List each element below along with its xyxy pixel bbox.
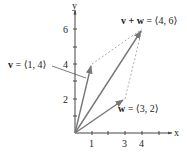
x-tick-label-3: 3 — [122, 138, 127, 149]
vector-diagram: x y 1 3 4 2 4 6 v = ⟨1, 4⟩ w = ⟨3, 2⟩ — [0, 0, 187, 157]
y-tick-label-6: 6 — [63, 24, 68, 35]
label-w: w = ⟨3, 2⟩ — [118, 103, 159, 114]
dashed-side-w-to-sum — [125, 29, 142, 99]
y-tick-label-4: 4 — [63, 59, 68, 70]
label-v: v = ⟨1, 4⟩ — [8, 59, 47, 70]
y-axis-label: y — [72, 0, 77, 11]
x-tick-label-4: 4 — [139, 138, 144, 149]
label-sum: v + w = ⟨4, 6⟩ — [121, 15, 177, 26]
x-tick-label-1: 1 — [89, 138, 94, 149]
x-axis-label: x — [174, 127, 179, 138]
vector-sum — [75, 31, 141, 133]
y-tick-label-2: 2 — [63, 94, 68, 105]
v-label-leader — [52, 66, 86, 78]
